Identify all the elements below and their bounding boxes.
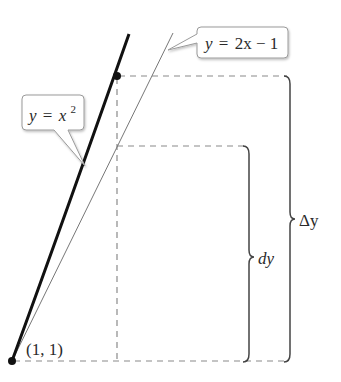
curve-label: y = x 2 [27, 103, 76, 125]
delta-y-label: Δy [299, 211, 319, 230]
big-brace [284, 76, 295, 362]
point-label: (1, 1) [26, 340, 63, 359]
tangent-label-rest: 2x − 1 [235, 34, 279, 53]
dy-label: dy [258, 249, 275, 268]
differential-diagram: y = 2x − 1 y = x 2 (1, 1) dy Δy [0, 0, 341, 382]
parabola-curve [12, 34, 129, 361]
point-1-1 [8, 357, 16, 365]
tangent-label: y = 2x − 1 [203, 34, 278, 53]
small-brace [243, 146, 254, 362]
tangent-line [12, 33, 173, 361]
point-x-plus-dx [113, 72, 121, 80]
